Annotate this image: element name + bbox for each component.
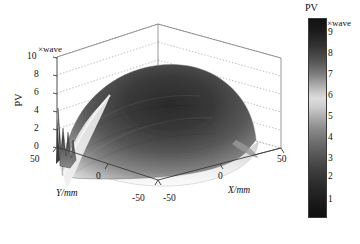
- figure-root: ×wave 10 8 6 4 2 0 PV 50 0 -50 Y/mm -50 …: [0, 0, 360, 244]
- z-tick-6: 6: [34, 88, 39, 98]
- y-tick-0: 0: [96, 172, 101, 182]
- y-axis-label: Y/mm: [56, 189, 78, 199]
- z-tick-0: 0: [34, 142, 39, 152]
- x-tick-0: 0: [218, 172, 223, 182]
- z-tick-4: 4: [34, 106, 39, 116]
- surface-plot-panel: ×wave 10 8 6 4 2 0 PV 50 0 -50 Y/mm -50 …: [0, 0, 300, 244]
- colorbar-tick-1: 1: [328, 195, 333, 205]
- colorbar-tick-4: 4: [328, 133, 333, 143]
- surface-dome: [50, 50, 280, 190]
- x-axis-label: X/mm: [228, 186, 250, 196]
- z-tick-8: 8: [34, 70, 39, 80]
- colorbar-tick-8: 8: [328, 49, 333, 59]
- colorbar-tick-3: 3: [328, 154, 333, 164]
- y-tick-50: 50: [30, 155, 40, 165]
- colorbar-tick-5: 5: [328, 112, 333, 122]
- colorbar-panel: PV ×wave 9 8 7 6 5 4 3 2 1: [300, 0, 360, 244]
- z-axis-unit: ×wave: [38, 45, 62, 54]
- colorbar-tick-7: 7: [328, 70, 333, 80]
- colorbar-gradient: [308, 18, 327, 218]
- x-tick-minus50: -50: [163, 194, 176, 204]
- colorbar-tick-9: 9: [328, 28, 333, 38]
- z-tick-2: 2: [34, 124, 39, 134]
- colorbar-tick-2: 2: [328, 172, 333, 182]
- colorbar-title: PV: [305, 3, 318, 13]
- x-tick-50: 50: [277, 155, 287, 165]
- z-axis-label: PV: [14, 89, 24, 111]
- y-tick-minus50: -50: [132, 194, 145, 204]
- z-tick-10: 10: [27, 52, 37, 62]
- colorbar-tick-6: 6: [328, 91, 333, 101]
- z-axis-ticks: [53, 57, 57, 148]
- surface-plot-svg: [0, 0, 300, 244]
